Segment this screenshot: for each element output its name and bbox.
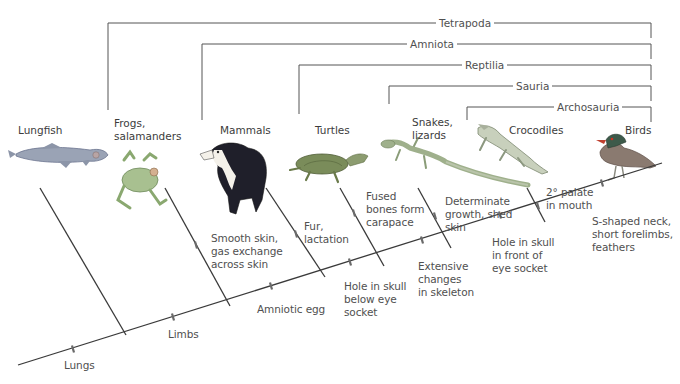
character-line: 2° palate <box>546 186 593 198</box>
taxon-line: Crocodiles <box>509 124 563 136</box>
cladogram: Tetrapoda Amniota Reptilia Sauria Archos… <box>0 0 680 384</box>
character-line: S-shaped neck, <box>592 215 671 227</box>
character-line: Fused <box>366 190 396 202</box>
turtle-illustration <box>290 154 368 182</box>
character-line: Lungs <box>64 359 95 371</box>
clade-label-reptilia: Reptilia <box>462 59 507 71</box>
taxon-line: Lungfish <box>18 124 62 136</box>
character-tick <box>349 259 351 266</box>
character-label-secondary-palate: 2° palatein mouth <box>546 186 593 212</box>
character-line: changes <box>418 273 461 285</box>
taxon-label-crocodiles: Crocodiles <box>509 124 563 137</box>
character-line: Smooth skin, <box>211 232 278 244</box>
character-label-fur-lactation: Fur,lactation <box>304 220 349 246</box>
lungfish-illustration <box>8 143 108 168</box>
character-tick <box>72 346 74 353</box>
character-line: carapace <box>366 216 414 228</box>
character-tick <box>270 283 272 290</box>
taxon-label-mammals: Mammals <box>220 124 271 137</box>
character-line: socket <box>344 306 377 318</box>
clade-label-tetrapoda: Tetrapoda <box>436 17 494 29</box>
character-line: below eye <box>344 293 397 305</box>
taxon-line: Mammals <box>220 124 271 136</box>
frog-illustration <box>118 152 166 208</box>
taxon-label-frogs-salamanders: Frogs,salamanders <box>114 117 182 143</box>
taxon-label-birds: Birds <box>625 124 651 137</box>
character-label-hole-front-eye: Hole in skullin front ofeye socket <box>492 236 554 275</box>
character-line: gas exchange <box>211 245 283 257</box>
taxon-line: lizards <box>412 129 446 141</box>
character-line: across skin <box>211 258 268 270</box>
character-line: Fur, <box>304 220 323 232</box>
character-line: lactation <box>304 233 349 245</box>
character-label-determinate-growth: Determinategrowth, shedskin <box>445 195 512 234</box>
taxon-line: Snakes, <box>412 116 453 128</box>
character-tick <box>601 180 603 187</box>
clade-label-sauria: Sauria <box>513 80 552 92</box>
taxon-line: Turtles <box>315 124 350 136</box>
character-label-hole-below-eye: Hole in skullbelow eyesocket <box>344 280 406 319</box>
character-label-amniotic-egg: Amniotic egg <box>257 303 325 316</box>
branch-line <box>40 188 126 335</box>
character-line: Extensive <box>418 260 468 272</box>
character-line: Determinate <box>445 195 510 207</box>
taxon-line: Frogs, <box>114 117 145 129</box>
character-line: Amniotic egg <box>257 303 325 315</box>
duck-illustration <box>596 134 656 180</box>
character-line: bones form <box>366 203 425 215</box>
clade-label-archosauria: Archosauria <box>554 101 622 113</box>
character-line: eye socket <box>492 262 547 274</box>
character-line: skin <box>445 221 466 233</box>
character-label-fused-bones: Fusedbones formcarapace <box>366 190 425 229</box>
taxon-line: salamanders <box>114 130 182 142</box>
character-line: feathers <box>592 241 635 253</box>
character-label-lungs: Lungs <box>64 359 95 372</box>
taxon-label-snakes-lizards: Snakes,lizards <box>412 116 453 142</box>
character-line: Limbs <box>168 328 199 340</box>
character-label-limbs: Limbs <box>168 328 199 341</box>
character-line: in mouth <box>546 199 592 211</box>
character-tick <box>172 314 174 321</box>
character-tick <box>353 210 355 217</box>
character-line: short forelimbs, <box>592 228 673 240</box>
taxon-line: Birds <box>625 124 651 136</box>
character-line: growth, shed <box>445 208 512 220</box>
taxon-label-turtles: Turtles <box>315 124 350 137</box>
character-label-extensive-changes: Extensivechangesin skeleton <box>418 260 474 299</box>
character-line: Hole in skull <box>492 236 554 248</box>
taxon-label-lungfish: Lungfish <box>18 124 62 137</box>
character-line: Hole in skull <box>344 280 406 292</box>
character-tick <box>195 242 197 249</box>
dog-illustration <box>200 143 266 214</box>
clade-label-amniota: Amniota <box>407 38 457 50</box>
character-label-s-shaped-neck: S-shaped neck,short forelimbs,feathers <box>592 215 673 254</box>
character-line: in skeleton <box>418 286 474 298</box>
character-tick <box>295 231 297 238</box>
character-label-smooth-skin: Smooth skin,gas exchangeacross skin <box>211 232 283 271</box>
character-line: in front of <box>492 249 542 261</box>
